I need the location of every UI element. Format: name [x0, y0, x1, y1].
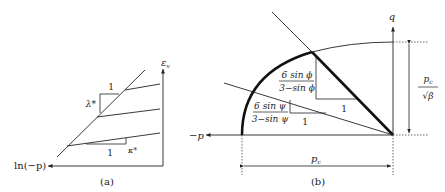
soil-mechanics-figure: 1 λ* 1 κ* ln(−p) εv (a) 6 sin ϕ 3−sin ϕ: [0, 0, 445, 192]
kappa-run-label: 1: [107, 148, 113, 158]
lambda-run-label: 1: [108, 82, 114, 92]
lambda-slope-triangle: [100, 94, 119, 113]
phi-slope-numerator: 6 sin ϕ: [282, 70, 313, 80]
lambda-star-label: λ*: [85, 99, 97, 109]
width-dim-label: pc: [311, 153, 321, 165]
q-axis-label: q: [389, 11, 395, 22]
phi-slope-denominator: 3−sin ϕ: [279, 83, 315, 93]
panel-b-caption: (b): [311, 176, 325, 187]
kappa-star-label: κ*: [127, 146, 137, 155]
height-dim-numerator: pc: [423, 74, 433, 85]
panel-a: 1 λ* 1 κ* ln(−p) εv (a): [14, 57, 170, 187]
cap-ellipse-thin: [312, 42, 393, 52]
phi-line-extension: [272, 12, 312, 52]
kappa-line-2: [97, 109, 160, 117]
psi-slope-denominator: 3−sin ψ: [252, 114, 289, 124]
psi-run-label: 1: [302, 117, 308, 127]
phi-run-label: 1: [341, 104, 347, 114]
minus-p-axis-label: −p: [189, 130, 204, 141]
psi-slope-triangle: [290, 100, 326, 113]
ln-p-axis-label: ln(−p): [14, 160, 46, 171]
epsilon-v-axis-label: εv: [161, 57, 170, 69]
panel-b: 6 sin ϕ 3−sin ϕ 1 6 sin ψ 3−sin ψ 1 pc √…: [189, 11, 438, 187]
panel-a-caption: (a): [100, 176, 114, 187]
height-dim-denominator: √β: [423, 91, 434, 101]
psi-slope-numerator: 6 sin ψ: [254, 101, 287, 111]
